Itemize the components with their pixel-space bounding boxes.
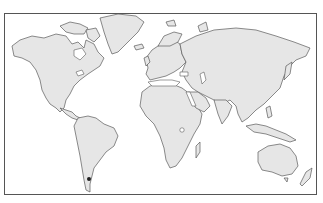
lake-victoria <box>180 128 184 132</box>
map-svg <box>0 0 323 203</box>
world-map <box>0 0 323 203</box>
location-marker <box>87 177 91 181</box>
black-sea <box>180 72 188 76</box>
mediterranean-sea <box>148 80 180 86</box>
